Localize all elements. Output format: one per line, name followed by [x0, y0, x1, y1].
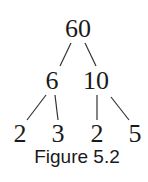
leaf-5: 5 — [129, 121, 142, 147]
edge-60-6 — [60, 43, 71, 66]
root-node: 60 — [65, 16, 91, 42]
figure-caption: Figure 5.2 — [34, 147, 120, 167]
edge-10-5 — [111, 97, 129, 120]
factor-tree-figure: 60 6 10 2 3 2 5 Figure 5.2 — [0, 0, 148, 182]
edge-60-10 — [85, 43, 96, 66]
leaf-2a: 2 — [14, 121, 27, 147]
leaf-2b: 2 — [91, 121, 104, 147]
edge-6-3 — [55, 95, 58, 120]
node-6: 6 — [46, 68, 59, 94]
node-10: 10 — [83, 68, 109, 94]
leaf-3: 3 — [52, 121, 65, 147]
edge-6-2 — [27, 95, 46, 120]
